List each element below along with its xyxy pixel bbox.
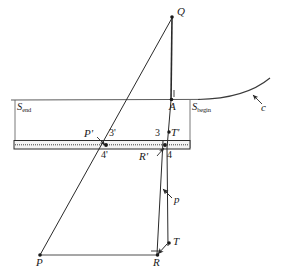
label-t-prime: T' <box>171 127 179 138</box>
point-4-dot <box>163 143 167 147</box>
diagram-canvas: Q A Send Sbegin c P' 3' 4' 3 T' R' 4 p T… <box>0 0 284 271</box>
t-vector-arrow <box>158 244 167 254</box>
ray-q-to-a <box>171 18 172 100</box>
label-3-prime: 3' <box>109 128 116 138</box>
ray-p-to-q <box>40 18 172 255</box>
label-s-begin: Sbegin <box>192 102 211 113</box>
label-4-prime: 4' <box>101 150 108 160</box>
point-4prime-dot <box>104 143 108 147</box>
label-3: 3 <box>155 128 160 138</box>
label-c: c <box>261 102 266 113</box>
ray-three-to-r <box>157 141 163 254</box>
label-p-vector: p <box>174 194 180 205</box>
label-p: P <box>36 257 43 268</box>
diagram-vector-layer <box>0 0 284 271</box>
label-4: 4 <box>167 150 172 160</box>
label-s-end-sub: end <box>22 106 31 113</box>
ray-four-to-t <box>167 148 168 246</box>
point-q-dot <box>170 15 174 19</box>
label-a: A <box>169 101 176 112</box>
label-p-prime: P' <box>84 128 93 139</box>
point-t-dot <box>167 241 171 245</box>
label-s-begin-sub: begin <box>197 106 210 113</box>
label-s-end: Send <box>17 102 31 113</box>
label-q: Q <box>177 6 185 17</box>
curve-c <box>198 78 270 100</box>
label-r-prime: R' <box>139 151 148 162</box>
label-r: R <box>153 257 160 268</box>
label-t: T <box>173 236 179 247</box>
